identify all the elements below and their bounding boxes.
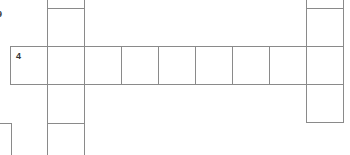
crossword-cell[interactable]	[47, 123, 85, 155]
clue-number-partial: 9	[0, 9, 2, 19]
crossword-cell[interactable]	[306, 8, 344, 47]
crossword-cell[interactable]	[84, 46, 122, 85]
crossword-cell[interactable]	[47, 8, 85, 48]
crossword-cell-4-across-start[interactable]: 4	[10, 46, 48, 85]
crossword-cell[interactable]	[0, 123, 12, 155]
crossword-cell[interactable]	[47, 46, 85, 85]
crossword-cell[interactable]	[121, 46, 159, 85]
crossword-cell[interactable]	[306, 84, 344, 123]
crossword-cell[interactable]	[195, 46, 233, 85]
crossword-cell[interactable]	[232, 46, 270, 85]
crossword-cell[interactable]	[47, 84, 85, 124]
crossword-cell[interactable]	[306, 46, 344, 85]
clue-number: 4	[16, 51, 21, 61]
crossword-cell[interactable]	[158, 46, 196, 85]
crossword-cell[interactable]	[269, 46, 307, 85]
